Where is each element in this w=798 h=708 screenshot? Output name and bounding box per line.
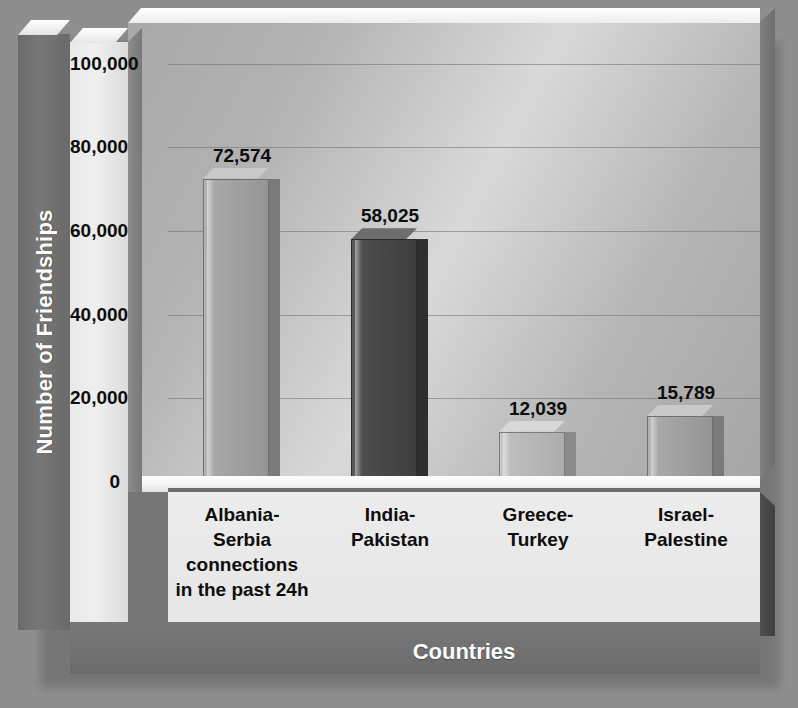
bar-highlight xyxy=(355,240,362,481)
bar-highlight xyxy=(503,433,510,481)
y-axis-title-text: Number of Friendships xyxy=(31,210,57,455)
bar xyxy=(351,239,417,482)
bar-value-label: 58,025 xyxy=(361,205,419,227)
bar-highlight xyxy=(651,417,658,481)
category-label-line: in the past 24h xyxy=(147,577,337,602)
y-tick-panel-top-bevel xyxy=(70,28,128,43)
y-tick-panel-right-face xyxy=(128,28,142,492)
x-axis-title: Countries xyxy=(168,630,760,674)
y-tick-label: 20,000 xyxy=(70,387,120,409)
plot-back-wall-right-face xyxy=(760,8,775,478)
bar-side-face xyxy=(565,432,576,482)
x-axis-title-text: Countries xyxy=(413,639,516,665)
bar-value-label: 12,039 xyxy=(509,398,567,420)
category-label: Israel-Palestine xyxy=(591,502,781,552)
bar-side-face xyxy=(417,239,428,482)
bar-value-label: 15,789 xyxy=(657,382,715,404)
y-tick-label: 0 xyxy=(70,471,120,493)
bar-top-face xyxy=(499,421,565,432)
category-label-line: connections xyxy=(147,552,337,577)
bar-value-label: 72,574 xyxy=(213,145,271,167)
y-tick-label: 40,000 xyxy=(70,304,120,326)
gridline xyxy=(168,64,760,65)
bar-front-face xyxy=(647,416,713,482)
bar-side-face xyxy=(269,179,280,482)
bar-side-face xyxy=(713,416,724,482)
bar-front-face xyxy=(203,179,269,482)
y-tick-panel xyxy=(70,42,128,630)
bar xyxy=(499,432,565,482)
bar-top-face xyxy=(647,405,713,416)
bar xyxy=(203,179,269,482)
chart-canvas: 72,57458,02512,03915,789 Albania-Serbiac… xyxy=(0,0,798,708)
y-tick-label: 80,000 xyxy=(70,136,120,158)
category-label-line: Israel- xyxy=(591,502,781,527)
bar-top-face xyxy=(203,168,269,179)
bar xyxy=(647,416,713,482)
y-axis-title: Number of Friendships xyxy=(18,34,70,630)
category-label-line: Palestine xyxy=(591,527,781,552)
y-tick-label: 100,000 xyxy=(70,53,120,75)
bar-top-face xyxy=(351,228,417,239)
y-tick-label: 60,000 xyxy=(70,220,120,242)
bar-highlight xyxy=(207,180,214,481)
plot-back-wall-top-bevel xyxy=(128,8,760,23)
bar-front-face xyxy=(351,239,417,482)
bar-front-face xyxy=(499,432,565,482)
y-axis-title-panel-top-bevel xyxy=(18,20,70,35)
